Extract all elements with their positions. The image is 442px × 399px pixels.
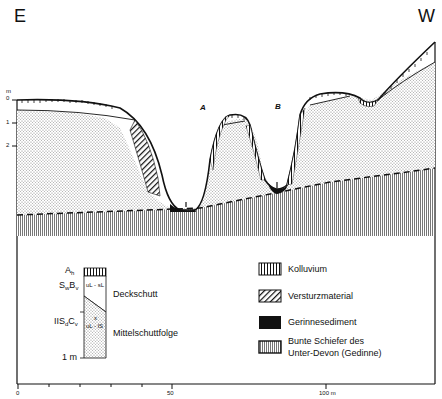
legend-swatch-schiefer: [259, 341, 281, 353]
horizon-ah: Ah: [65, 265, 74, 276]
texture-upper: uL - sL: [86, 282, 104, 288]
texture-lower: uL - lS: [86, 323, 103, 329]
scale-label-0: 0: [16, 390, 19, 396]
texture-marker: x: [94, 315, 97, 321]
legend-label-kolluvium: Kolluvium: [288, 264, 327, 275]
horizon-swbv: SwBv: [59, 280, 78, 291]
legend-label-gerinne: Gerinnesediment: [288, 317, 357, 328]
scale-ticks: [18, 384, 326, 389]
valley-label-b: B: [275, 102, 281, 111]
depth-tick-2: 2: [6, 142, 9, 148]
unit-mittelschuttfolge: Mittelschuttfolge: [113, 328, 178, 338]
legend-label-versturz: Versturzmaterial: [288, 291, 353, 302]
legend-swatch-kolluvium: [259, 263, 281, 275]
legend-label-schiefer-1: Bunte Schiefer des: [288, 336, 364, 347]
unit-deckschutt: Deckschutt: [113, 289, 158, 299]
legend-swatch-gerinne: [259, 316, 281, 329]
depth-unit: m: [6, 88, 11, 94]
depth-tick-0: 0: [6, 95, 9, 101]
legend-swatch-versturz: [259, 290, 281, 302]
column-depth-label: 1 m: [62, 352, 77, 362]
direction-west: W: [418, 6, 435, 27]
column-kolluvium: [84, 268, 106, 276]
cross-section-diagram: [0, 0, 442, 399]
legend-label-schiefer-2: Unter-Devon (Gedinne): [288, 348, 382, 359]
valley-label-a: A: [200, 103, 206, 112]
scale-label-50: 50: [167, 390, 174, 396]
depth-tick-1: 1: [6, 119, 9, 125]
direction-east: E: [14, 6, 26, 27]
horizon-iisdcv: IISdCv: [54, 316, 78, 327]
scale-label-100: 100 m: [319, 390, 336, 396]
